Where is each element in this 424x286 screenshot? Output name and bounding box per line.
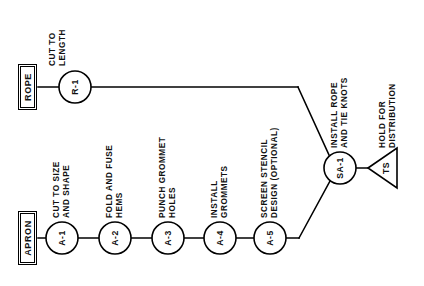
process-flow-diagram: ROPE APRON R-1 A-1 A-2 A-3 A-4 A-5 SA-1 … <box>0 0 424 286</box>
caption-ts-line2: DISTRIBUTION <box>388 83 398 148</box>
node-label-a4: A-4 <box>215 230 225 245</box>
caption-a3-line1: PUNCH GROMMET <box>158 137 168 218</box>
caption-sa1-line2: AND TIE KNOTS <box>340 77 350 148</box>
caption-ts: HOLD FOR DISTRIBUTION <box>378 83 397 148</box>
node-label-r1: R-1 <box>70 79 80 94</box>
source-box-apron: APRON <box>18 211 37 265</box>
caption-a5-line1: SCREEN STENCIL <box>260 127 270 218</box>
connector-rope-down-to-sa1 <box>298 87 329 155</box>
caption-a4-line1: INSTALL <box>210 165 220 218</box>
node-label-ts: TS <box>381 162 391 174</box>
node-label-a1: A-1 <box>57 230 67 245</box>
source-box-rope-label: ROPE <box>23 73 33 101</box>
node-label-a2: A-2 <box>110 230 120 245</box>
connector-elbow-to-sa1 <box>299 181 330 238</box>
caption-a1: CUT TO SIZE AND SHAPE <box>52 161 71 218</box>
node-label-a3: A-3 <box>163 230 173 245</box>
source-box-apron-inner: APRON <box>20 213 34 262</box>
caption-a4: INSTALL GROMMETS <box>210 165 229 218</box>
caption-a4-line2: GROMMETS <box>220 165 230 218</box>
caption-a3: PUNCH GROMMET HOLES <box>158 137 177 218</box>
node-label-sa1: SA-1 <box>335 157 345 179</box>
caption-a5: SCREEN STENCIL DESIGN (OPTIONAL) <box>260 127 279 218</box>
source-box-rope-inner: ROPE <box>20 66 34 107</box>
caption-ts-line1: HOLD FOR <box>378 83 388 148</box>
caption-r1-line2: LENGTH <box>58 29 68 66</box>
caption-a3-line2: HOLES <box>168 137 178 218</box>
caption-r1-line1: CUT TO <box>48 29 58 66</box>
caption-a2: FOLD AND FUSE HEMS <box>105 145 124 218</box>
source-box-rope: ROPE <box>18 64 37 110</box>
caption-a5-line2: DESIGN (OPTIONAL) <box>270 127 280 218</box>
caption-r1: CUT TO LENGTH <box>48 29 67 66</box>
node-label-a5: A-5 <box>265 230 275 245</box>
caption-sa1-line1: INSTALL ROPE <box>330 77 340 148</box>
caption-a2-line1: FOLD AND FUSE <box>105 145 115 218</box>
caption-a2-line2: HEMS <box>115 145 125 218</box>
source-box-apron-label: APRON <box>23 220 33 256</box>
caption-a1-line2: AND SHAPE <box>62 161 72 218</box>
caption-a1-line1: CUT TO SIZE <box>52 161 62 218</box>
caption-sa1: INSTALL ROPE AND TIE KNOTS <box>330 77 349 148</box>
